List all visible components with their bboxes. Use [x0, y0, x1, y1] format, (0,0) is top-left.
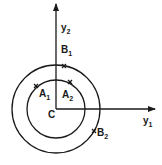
concentric-circles-diagram: y2 y1 B1 A2 A1 B2 C: [0, 0, 162, 165]
y1-axis-label: y1: [143, 115, 153, 128]
point-label-a1: A1: [39, 88, 50, 101]
point-label-b1: B1: [61, 44, 72, 57]
point-label-b2: B2: [97, 127, 108, 140]
point-label-a2: A2: [62, 89, 73, 102]
y2-axis-label: y2: [61, 22, 71, 35]
center-label: C: [48, 109, 55, 120]
